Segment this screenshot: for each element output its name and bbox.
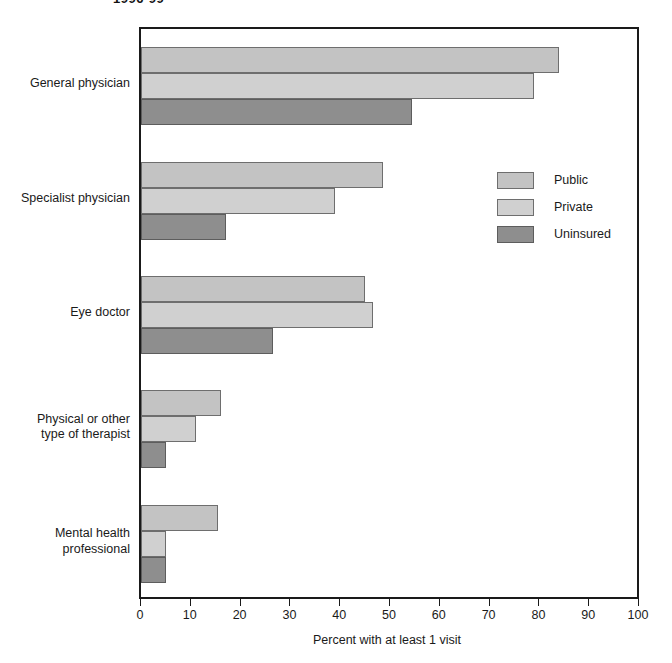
x-tick-90 <box>588 599 589 606</box>
plot-area <box>139 27 639 599</box>
y-axis-label-line2: type of therapist <box>0 427 130 443</box>
y-axis-label-0: General physician <box>0 76 130 92</box>
x-tick-50 <box>389 599 390 606</box>
x-tick-30 <box>289 599 290 606</box>
chart-title: 1996-99 <box>113 0 164 6</box>
y-axis-label-line1: General physician <box>0 76 130 92</box>
bar-public-2 <box>141 276 365 302</box>
bar-public-4 <box>141 505 218 531</box>
bar-public-1 <box>141 162 383 188</box>
bar-chart: 1996-99 General physicianSpecialist phys… <box>0 0 672 663</box>
y-axis-label-1: Specialist physician <box>0 191 130 207</box>
bar-private-2 <box>141 302 373 328</box>
x-tick-100 <box>638 599 639 606</box>
y-axis-label-3: Physical or othertype of therapist <box>0 412 130 443</box>
bar-private-3 <box>141 416 196 442</box>
y-axis-label-line1: Mental health <box>0 526 130 542</box>
x-tick-10 <box>190 599 191 606</box>
bar-private-0 <box>141 73 534 99</box>
y-axis-label-line1: Eye doctor <box>0 305 130 321</box>
x-tick-label-50: 50 <box>369 608 409 622</box>
x-tick-label-40: 40 <box>319 608 359 622</box>
legend-label-uninsured: Uninsured <box>554 224 611 244</box>
bar-uninsured-0 <box>141 99 412 125</box>
legend-label-private: Private <box>554 197 593 217</box>
bar-uninsured-2 <box>141 328 273 354</box>
y-axis-label-2: Eye doctor <box>0 305 130 321</box>
legend-swatch-private <box>497 199 534 216</box>
y-axis-label-line2: professional <box>0 542 130 558</box>
x-axis-title: Percent with at least 1 visit <box>0 633 672 647</box>
y-axis-label-line1: Specialist physician <box>0 191 130 207</box>
bar-private-1 <box>141 188 335 214</box>
x-tick-70 <box>489 599 490 606</box>
x-axis-title-text: Percent with at least 1 visit <box>313 633 461 647</box>
x-tick-label-90: 90 <box>568 608 608 622</box>
bar-private-4 <box>141 531 166 557</box>
x-tick-label-20: 20 <box>220 608 260 622</box>
x-tick-0 <box>140 599 141 606</box>
x-tick-label-60: 60 <box>419 608 459 622</box>
x-tick-label-10: 10 <box>170 608 210 622</box>
bars-layer <box>141 29 637 597</box>
x-tick-40 <box>339 599 340 606</box>
y-axis-label-line1: Physical or other <box>0 412 130 428</box>
bar-public-3 <box>141 390 221 416</box>
bar-uninsured-3 <box>141 442 166 468</box>
x-tick-label-100: 100 <box>618 608 658 622</box>
bar-uninsured-1 <box>141 214 226 240</box>
legend-label-public: Public <box>554 170 588 190</box>
y-axis-label-4: Mental healthprofessional <box>0 526 130 557</box>
legend-swatch-public <box>497 172 534 189</box>
x-tick-label-0: 0 <box>120 608 160 622</box>
legend-swatch-uninsured <box>497 226 534 243</box>
x-tick-60 <box>439 599 440 606</box>
x-tick-label-70: 70 <box>469 608 509 622</box>
x-tick-label-80: 80 <box>518 608 558 622</box>
bar-uninsured-4 <box>141 557 166 583</box>
x-tick-80 <box>538 599 539 606</box>
x-tick-label-30: 30 <box>269 608 309 622</box>
x-tick-20 <box>240 599 241 606</box>
bar-public-0 <box>141 47 559 73</box>
